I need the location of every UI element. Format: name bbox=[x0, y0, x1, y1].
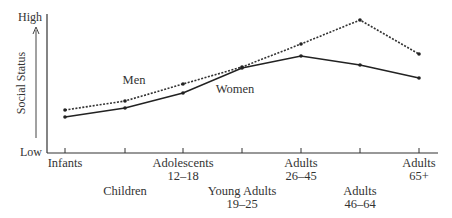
x-label-adolescents-range: 12–18 bbox=[167, 169, 198, 183]
x-label-young-adults: Young Adults bbox=[208, 184, 277, 198]
x-label-adults-26-45-range: 26–45 bbox=[285, 169, 316, 183]
legend-women: Women bbox=[216, 82, 255, 96]
x-label-adults-46-64-range: 46–64 bbox=[344, 197, 376, 211]
x-label-adults-26-45: Adults bbox=[284, 156, 317, 170]
x-label-young-adults-range: 19–25 bbox=[226, 197, 257, 211]
x-label-adults-65: Adults bbox=[402, 156, 435, 170]
x-ticks bbox=[65, 148, 419, 153]
x-label-children: Children bbox=[103, 184, 147, 198]
x-label-adults-65-range: 65+ bbox=[409, 169, 429, 183]
series-men bbox=[63, 18, 421, 112]
y-axis-title: Social Status bbox=[14, 52, 28, 115]
legend-men: Men bbox=[123, 73, 147, 87]
x-label-infants: Infants bbox=[48, 156, 83, 170]
x-labels: Infants Children Adolescents 12–18 Young… bbox=[48, 156, 436, 211]
x-label-adults-46-64: Adults bbox=[343, 184, 376, 198]
y-low-label: Low bbox=[20, 145, 42, 159]
y-high-label: High bbox=[18, 10, 42, 24]
social-status-chart: High Low Social Status Infants Children … bbox=[0, 0, 452, 218]
x-label-adolescents: Adolescents bbox=[152, 156, 213, 170]
